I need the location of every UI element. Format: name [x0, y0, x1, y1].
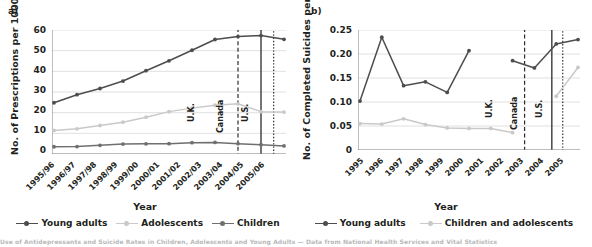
panel-b-y-axis-title: No. of Completed Suicides per 1000 [302, 20, 312, 160]
panel-b-ytick-0: 0 [320, 145, 352, 155]
panel-a-ytick-50: 50 [20, 45, 46, 55]
panel-a-ytick-20: 20 [20, 105, 46, 115]
legend-line-icon [212, 223, 234, 224]
panel-a-ytick-40: 40 [20, 65, 46, 75]
panel-a-legend-label-1: Adolescents [141, 218, 203, 228]
panel-a-legend-item-young-adults: Young adults [16, 218, 107, 228]
panel-a-ytick-10: 10 [20, 125, 46, 135]
panel-a: a) No. of Prescriptions per 1000 60 50 4… [0, 0, 296, 247]
panel-b-legend-label-1: Children and adolescents [445, 218, 574, 228]
legend-line-icon [16, 223, 38, 224]
figure-caption-fragment: Use of Antidepressants and Suicide Rates… [0, 238, 592, 247]
legend-line-icon [420, 223, 442, 224]
panel-a-legend: Young adults Adolescents Children [0, 218, 296, 228]
panel-a-legend-label-2: Children [237, 218, 280, 228]
panel-a-x-axis-title: Year [10, 201, 280, 212]
panel-b-ytick-020: 0.20 [320, 49, 352, 59]
panel-a-ytick-30: 30 [20, 85, 46, 95]
panel-a-legend-item-children: Children [212, 218, 280, 228]
panel-a-plot-area [52, 30, 286, 154]
panel-b-x-axis-title: Year [316, 201, 576, 212]
legend-line-icon [315, 223, 337, 224]
panel-a-ytick-0: 0 [20, 145, 46, 155]
panel-b-legend-item-children-and-adolescents: Children and adolescents [420, 218, 574, 228]
panel-a-legend-item-adolescents: Adolescents [116, 218, 203, 228]
panel-b-ytick-025: 0.25 [320, 25, 352, 35]
panel-a-y-axis-title: No. of Prescriptions per 1000 [10, 25, 20, 155]
panel-b-marker-label-canada: Canada [510, 97, 519, 131]
panel-b: b) No. of Completed Suicides per 1000 0.… [296, 0, 592, 247]
panel-b-legend: Young adults Children and adolescents [296, 218, 592, 228]
panel-b-ytick-005: 0.05 [320, 121, 352, 131]
panel-a-legend-label-0: Young adults [41, 218, 107, 228]
panel-b-legend-item-young-adults: Young adults [315, 218, 406, 228]
legend-line-icon [116, 223, 138, 224]
panel-a-ytick-60: 60 [20, 25, 46, 35]
panel-b-marker-label-uk: U.K. [485, 99, 494, 118]
panel-b-ytick-010: 0.10 [320, 97, 352, 107]
panel-b-label: b) [311, 6, 322, 16]
panel-b-legend-label-0: Young adults [340, 218, 406, 228]
panel-b-ytick-015: 0.15 [320, 73, 352, 83]
panel-b-plot-area [358, 30, 580, 150]
panel-a-marker-label-canada: Canada [216, 100, 225, 134]
panel-a-marker-label-uk: U.K. [187, 103, 196, 122]
panel-a-marker-label-us: U.S. [241, 104, 250, 122]
panel-b-marker-label-us: U.S. [535, 100, 544, 118]
